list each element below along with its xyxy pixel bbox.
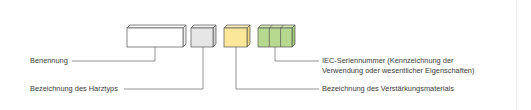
block-benennung — [127, 25, 186, 47]
block-harztyp — [191, 25, 216, 47]
leader-verstaerkung — [236, 47, 319, 89]
label-iec-line2: Verwendung oder wesentlicher Eigenschaft… — [322, 66, 474, 76]
label-harztyp: Bezeichnung des Harztyps — [30, 84, 118, 94]
page-divider — [516, 0, 517, 110]
leader-benennung — [72, 47, 155, 61]
block-verstaerkung — [224, 25, 250, 47]
designation-diagram: Benennung Bezeichnung des Harztyps IEC-S… — [0, 0, 531, 110]
label-benennung: Benennung — [30, 56, 68, 66]
block-iec-seriennummer — [258, 25, 295, 47]
leader-harztyp — [124, 47, 203, 89]
label-verstaerkung: Bezeichnung des Verstärkungsmaterials — [322, 84, 454, 94]
label-iec-line1: IEC-Seriennummer (Kennzeichnung der — [322, 56, 453, 66]
leader-iec — [275, 47, 319, 61]
